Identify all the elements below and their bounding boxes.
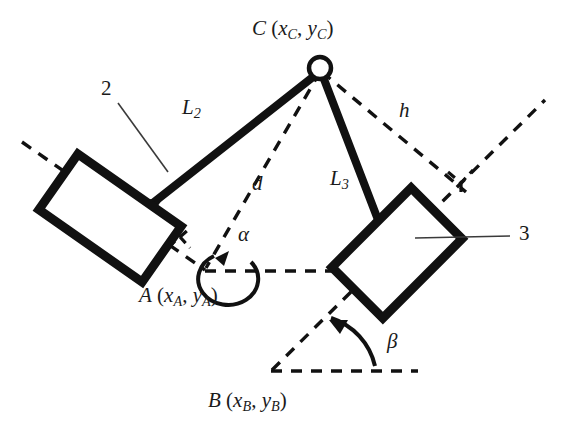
link-L3-letter: L [330,166,342,190]
leader-line-body-2 [118,103,168,172]
slider-block-2 [39,154,181,282]
angle-arc-beta [329,318,375,366]
point-label-B: B (xB, yB) [208,390,287,413]
point-label-C: C (xC, yC) [252,18,333,41]
distance-label-h: h [399,100,410,121]
point-C-x: xC [278,16,297,40]
distance-d-dashed [206,72,320,268]
point-C-paren-close: ) [326,16,333,40]
link-L2-index: 2 [194,105,201,121]
angle-label-alpha: α [238,224,249,245]
point-A-x: xA [164,283,182,307]
point-C-y: yC [308,16,327,40]
revolute-joint-C [309,57,331,79]
mechanism-drawing [0,0,568,435]
link-label-L2: L2 [182,97,201,120]
link-L2-letter: L [182,95,194,119]
point-A-paren-open: ( [152,283,164,307]
point-B-paren-close: ) [280,388,287,412]
body-number-2: 2 [101,78,112,99]
point-C-paren-open: ( [266,16,278,40]
point-C-comma: , [297,16,308,40]
distance-label-d: d [252,173,263,194]
point-B-x: xB [233,388,251,412]
point-A-name: A [139,283,152,307]
kinematic-diagram: C (xC, yC) A (xA, yA) B (xB, yB) L2 L3 d… [0,0,568,435]
slider-block-3 [332,188,462,318]
point-A-paren-close: ) [211,283,218,307]
link-L2 [144,73,318,210]
point-label-A: A (xA, yA) [139,285,218,308]
point-B-paren-open: ( [221,388,233,412]
point-B-y: yB [262,388,280,412]
point-C-name: C [252,16,266,40]
point-B-name: B [208,388,221,412]
link-L3-index: 3 [342,176,349,192]
angle-label-beta: β [387,331,397,352]
point-A-y: yA [193,283,211,307]
link-label-L3: L3 [330,168,349,191]
point-A-comma: , [182,283,193,307]
body-number-3: 3 [519,223,530,244]
point-B-comma: , [251,388,262,412]
